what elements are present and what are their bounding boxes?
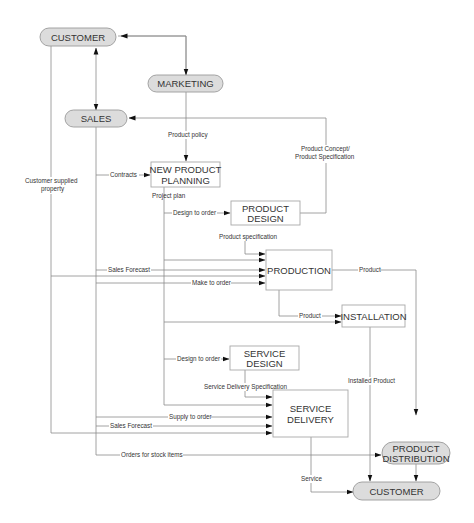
label-product-to-distribution: Product bbox=[359, 266, 381, 273]
customer-supplied-line bbox=[51, 46, 96, 433]
label-design-to-order-product: Design to order bbox=[173, 209, 216, 217]
customer-marketing-connector bbox=[118, 36, 186, 75]
svg-text:DESIGN: DESIGN bbox=[247, 213, 284, 224]
label-customer-supplied-1: Customer supplied bbox=[25, 177, 78, 185]
label-make-to-order: Make to order bbox=[192, 279, 231, 286]
svg-text:CUSTOMER: CUSTOMER bbox=[51, 32, 105, 43]
node-production[interactable]: PRODUCTION bbox=[266, 250, 332, 290]
svg-text:CUSTOMER: CUSTOMER bbox=[369, 486, 423, 497]
label-product-concept-1: Product Concept/ bbox=[301, 145, 350, 153]
node-product-design[interactable]: PRODUCT DESIGN bbox=[231, 201, 300, 225]
svg-text:MARKETING: MARKETING bbox=[157, 78, 213, 89]
svg-text:DISTRIBUTION: DISTRIBUTION bbox=[382, 453, 449, 464]
svg-text:SALES: SALES bbox=[81, 113, 112, 124]
label-service: Service bbox=[301, 475, 322, 482]
node-sales[interactable]: SALES bbox=[65, 110, 127, 127]
label-design-to-order-service: Design to order bbox=[177, 355, 220, 363]
node-service-delivery[interactable]: SERVICE DELIVERY bbox=[273, 390, 348, 437]
label-installed-product: Installed Product bbox=[348, 377, 395, 384]
svg-text:INSTALLATION: INSTALLATION bbox=[340, 311, 406, 322]
connectors bbox=[51, 36, 416, 492]
label-product-policy: Product policy bbox=[168, 131, 208, 139]
arrow-service-to-customer bbox=[311, 437, 353, 492]
label-supply-to-order: Supply to order bbox=[169, 413, 212, 421]
svg-text:SERVICE: SERVICE bbox=[290, 403, 332, 414]
label-product-concept-2: Product Specification bbox=[295, 153, 355, 161]
label-contracts: Contracts bbox=[110, 171, 137, 178]
node-service-design[interactable]: SERVICE DESIGN bbox=[230, 346, 299, 370]
label-orders-for-stock-items: Orders for stock items bbox=[121, 451, 183, 458]
label-customer-supplied-2: property bbox=[41, 185, 65, 193]
svg-text:DESIGN: DESIGN bbox=[246, 358, 283, 369]
label-project-plan: Project plan bbox=[152, 192, 186, 200]
node-installation[interactable]: INSTALLATION bbox=[340, 305, 406, 327]
node-product-distribution[interactable]: PRODUCT DISTRIBUTION bbox=[382, 442, 450, 464]
node-customer-bottom[interactable]: CUSTOMER bbox=[353, 482, 440, 500]
label-product-specification: Product specification bbox=[219, 233, 278, 241]
node-new-product-planning[interactable]: NEW PRODUCT PLANNING bbox=[150, 162, 222, 187]
label-sales-forecast-production: Sales Forecast bbox=[108, 266, 150, 273]
svg-text:NEW PRODUCT: NEW PRODUCT bbox=[150, 164, 222, 175]
svg-text:DELIVERY: DELIVERY bbox=[287, 414, 334, 425]
svg-text:PRODUCTION: PRODUCTION bbox=[267, 265, 331, 276]
svg-text:PLANNING: PLANNING bbox=[161, 175, 210, 186]
label-sales-forecast-service: Sales Forecast bbox=[110, 422, 152, 429]
process-flow-diagram: Product policy Product Concept/ Product … bbox=[0, 0, 474, 523]
node-customer-top[interactable]: CUSTOMER bbox=[40, 28, 116, 46]
node-marketing[interactable]: MARKETING bbox=[148, 75, 223, 92]
label-product-to-installation: Product bbox=[299, 312, 321, 319]
